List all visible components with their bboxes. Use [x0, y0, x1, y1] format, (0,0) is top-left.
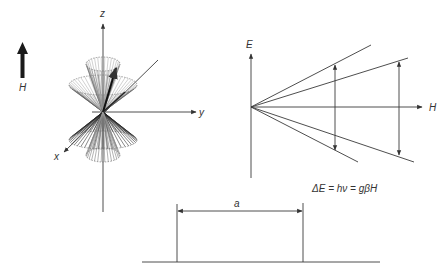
z-axis-label: z — [99, 8, 105, 19]
thick-up-arrow-icon — [17, 42, 28, 78]
figure-canvas: H z y x E H ΔE = hν = gβH a — [0, 0, 448, 274]
energy-level-upper-shallow — [251, 58, 408, 107]
energy-level-upper-steep — [251, 45, 371, 107]
field-arrow: H — [17, 42, 28, 93]
resonance-equation: ΔE = hν = gβH — [311, 183, 378, 194]
precession-diagram: z y x — [53, 8, 205, 212]
x-axis-label: x — [53, 151, 60, 162]
field-arrow-label: H — [19, 82, 27, 93]
field-axis-label: H — [429, 102, 437, 113]
y-axis-label: y — [198, 107, 205, 118]
energy-level-lower-shallow — [251, 107, 414, 162]
energy-level-lower-steep — [251, 107, 358, 162]
dimension-label: a — [234, 198, 240, 209]
energy-axis-label: E — [246, 39, 253, 50]
zeeman-diagram: E H — [246, 39, 437, 178]
bottom-diagram: a — [142, 198, 380, 262]
